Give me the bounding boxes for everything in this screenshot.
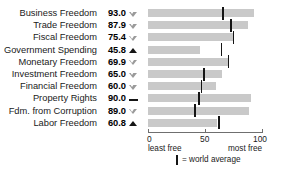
axis-tick-label: 50 (200, 134, 209, 144)
dash-icon (129, 99, 138, 101)
bar (148, 9, 254, 17)
score-value: 65.0 (99, 68, 126, 80)
score-value: 90.0 (99, 92, 126, 104)
world-average-tick (222, 7, 224, 20)
trend-down-icon (129, 20, 140, 32)
triangle-up-icon (129, 48, 137, 53)
triangle-down-icon (129, 12, 137, 17)
bar (148, 70, 222, 78)
plot-area (148, 9, 262, 132)
score-value: 45.8 (99, 44, 126, 56)
chart-title-cropped: WORLD RANK: 6 REGIONAL RANK: 2 (6, 0, 216, 2)
bar (148, 46, 200, 54)
category-label: Trade Freedom (0, 19, 97, 31)
world-average-tick (233, 31, 235, 44)
score-value: 60.0 (99, 80, 126, 92)
axis-tick (205, 129, 206, 133)
score-value: 87.9 (99, 19, 126, 31)
world-average-tick (203, 68, 205, 81)
trend-down-icon (129, 106, 140, 118)
category-label: Investment Freedom (0, 68, 97, 80)
bar (148, 21, 248, 29)
world-average-tick (194, 104, 196, 117)
category-label: Monetary Freedom (0, 56, 97, 68)
triangle-down-icon (129, 85, 137, 90)
trend-up-icon (129, 118, 140, 130)
trend-down-icon (129, 32, 140, 44)
category-label: Labor Freedom (0, 117, 97, 129)
trend-up-icon (129, 45, 140, 57)
score-value: 60.8 (99, 117, 126, 129)
bar (148, 82, 216, 90)
category-label: Business Freedom (0, 7, 97, 19)
score-value: 93.0 (99, 7, 126, 19)
legend-label: = world average (182, 154, 240, 166)
bar (148, 119, 217, 127)
axis-label-most-free: most free (228, 144, 262, 154)
category-label: Fdm. from Corruption (0, 105, 97, 117)
axis-label-least-free: least free (148, 144, 182, 154)
economic-freedom-bar-chart: WORLD RANK: 6 REGIONAL RANK: 2 Business … (0, 0, 285, 170)
world-average-tick (221, 43, 223, 56)
world-average-tick-icon (176, 155, 178, 165)
triangle-up-icon (129, 121, 137, 126)
triangle-down-icon (129, 24, 137, 29)
world-average-tick (228, 55, 230, 68)
category-label: Financial Freedom (0, 80, 97, 92)
trend-down-icon (129, 57, 140, 69)
triangle-down-icon (129, 109, 137, 114)
trend-down-icon (129, 69, 140, 81)
axis-tick (148, 129, 149, 133)
world-average-tick (201, 80, 203, 93)
category-label: Government Spending (0, 44, 97, 56)
bar (148, 58, 228, 66)
axis-tick-label: 0 (147, 134, 152, 144)
bar (148, 33, 234, 41)
category-label: Property Rights (0, 92, 97, 104)
triangle-down-icon (129, 73, 137, 78)
trend-down-icon (129, 81, 140, 93)
score-value: 89.0 (99, 105, 126, 117)
triangle-down-icon (129, 60, 137, 65)
score-value: 69.9 (99, 56, 126, 68)
world-average-tick (230, 19, 232, 32)
axis-tick (262, 129, 263, 133)
category-label: Fiscal Freedom (0, 31, 97, 43)
world-average-tick (198, 92, 200, 105)
trend-down-icon (129, 8, 140, 20)
score-value: 75.4 (99, 31, 126, 43)
axis-tick-label: 100 (253, 134, 267, 144)
bar (148, 107, 249, 115)
trend-flat-icon (129, 93, 140, 105)
triangle-down-icon (129, 36, 137, 41)
world-average-tick (218, 116, 220, 129)
